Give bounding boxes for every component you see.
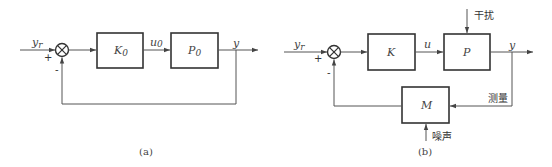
controller-label-b: K [386,46,396,59]
plant-label-b: P [462,46,471,59]
input-label-a: yr [31,36,43,50]
caption-b: (b) [418,146,432,157]
summing-junction-a [56,44,69,57]
caption-a: (a) [139,146,153,157]
plus-sign-a: + [44,52,52,63]
minus-sign-b: - [327,67,331,78]
input-label-b: yr [293,38,305,52]
control-signal-label-b: u [424,38,431,51]
sensor-label: M [420,99,433,112]
output-label-b: y [508,39,516,52]
plus-sign-b: + [314,53,322,64]
output-label-a: y [232,37,240,50]
disturbance-label: 干扰 [474,9,494,21]
summing-junction-b [328,46,341,59]
control-signal-label-a: u0 [150,36,163,49]
minus-sign-a: - [55,64,59,75]
diagram-b: yr + - K u 干扰 P y 测量 M 噪 [284,9,533,157]
measurement-label: 测量 [488,92,508,104]
noise-label: 噪声 [432,130,452,142]
block-diagrams: yr + - K0 u0 P0 y (a) yr + [0,0,552,167]
diagram-a: yr + - K0 u0 P0 y (a) [20,33,258,157]
